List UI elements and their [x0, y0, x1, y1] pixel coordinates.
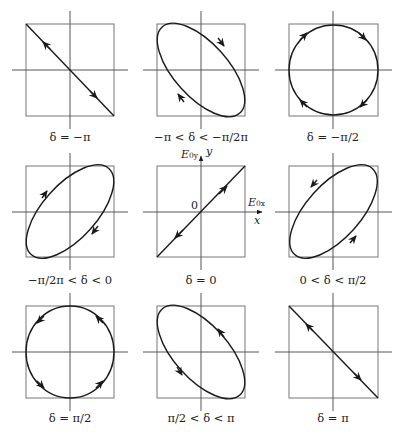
caption-panel-6: 0 < δ < π/2 — [266, 273, 400, 287]
x-amplitude-label: E0x — [248, 196, 265, 209]
panel-delta-between-half-pi-and-pi — [142, 291, 260, 413]
x-axis-label: x — [254, 214, 260, 227]
polarization-diagram — [0, 0, 401, 437]
x-amplitude-subscript: 0x — [256, 199, 265, 208]
caption-panel-2: −π < δ < −π/2π — [134, 130, 268, 144]
arrow-icon — [359, 33, 366, 40]
y-axis-label: y — [206, 145, 212, 158]
y-amplitude-subscript: 0y — [189, 151, 198, 160]
caption-panel-1: δ = −π — [3, 130, 137, 144]
arrow-icon — [90, 91, 97, 98]
arrow-icon — [218, 38, 224, 46]
caption-panel-8: π/2 < δ < π — [134, 411, 268, 425]
arrow-icon — [306, 324, 313, 331]
panel-delta-zero — [143, 156, 262, 270]
panel-delta-between-zero-and-half-pi — [275, 150, 393, 272]
caption-panel-5: δ = 0 — [134, 273, 268, 287]
panel-delta-between-minus-half-pi-and-zero — [11, 150, 129, 272]
y-amplitude-symbol: E — [181, 148, 189, 161]
panel-delta-minus-half-pi — [275, 11, 392, 129]
arrow-icon — [350, 236, 356, 243]
panel-delta-pi — [275, 293, 392, 411]
arrow-icon — [300, 33, 307, 40]
arrow-icon — [311, 180, 317, 187]
arrow-icon — [178, 94, 184, 102]
arrow-icon — [219, 186, 227, 194]
origin-label: 0 — [191, 199, 198, 212]
panel-delta-half-pi — [12, 293, 128, 411]
arrow-icon — [43, 42, 50, 49]
arrow-icon — [360, 100, 367, 107]
caption-panel-3: δ = −π/2 — [266, 130, 400, 144]
arrow-icon — [218, 329, 224, 337]
y-amplitude-label: E0y — [181, 148, 198, 161]
arrow-icon — [300, 100, 307, 107]
caption-panel-7: δ = π/2 — [3, 411, 137, 425]
x-amplitude-symbol: E — [248, 196, 256, 209]
arrow-icon — [354, 373, 361, 380]
caption-panel-9: δ = π — [266, 411, 400, 425]
caption-panel-4: −π/2π < δ < 0 — [3, 273, 137, 287]
arrow-icon — [175, 230, 183, 238]
panel-delta-minus-pi — [12, 11, 128, 129]
panel-delta-between-minus-pi-and-minus-half-pi — [142, 9, 260, 131]
